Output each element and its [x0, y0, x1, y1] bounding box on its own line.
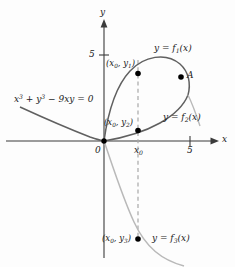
branch-f1-curve — [104, 57, 189, 141]
point-x0-y1-label: (x0, y1) — [106, 59, 135, 69]
branch-f3-curve — [104, 141, 184, 266]
p1-open: (x — [106, 58, 114, 68]
x0-label: x0 — [134, 146, 143, 156]
f2-lhs: y = f — [163, 112, 185, 122]
folium-of-descartes-figure: y x 5 5 0 x0 x3 + y3 − 9xy = 0 y = f1(x)… — [0, 0, 235, 267]
y-axis-label: y — [100, 8, 105, 17]
point-origin — [101, 138, 106, 143]
branch-label-f2: y = f2(x) — [163, 113, 201, 123]
point-A — [178, 74, 184, 80]
x-axis-arrow — [211, 138, 220, 145]
curve-canvas — [0, 0, 235, 267]
f2-rhs: (x) — [189, 112, 201, 122]
point-x0-y1 — [135, 71, 141, 77]
p2-close: ) — [130, 117, 133, 127]
p1-close: ) — [132, 58, 135, 68]
f1-lhs: y = f — [154, 43, 176, 53]
point-x0-y3 — [135, 236, 141, 242]
p1-mid: , y — [118, 58, 128, 68]
y-axis-arrow — [101, 19, 108, 28]
y-tick-label-5: 5 — [89, 50, 95, 59]
f3-rhs: (x) — [178, 233, 190, 243]
branch-left-arm-curve — [20, 107, 104, 141]
equation-rest: − 9xy = 0 — [45, 94, 93, 104]
equation-label: x3 + y3 − 9xy = 0 — [14, 94, 93, 104]
p3-open: (x — [102, 233, 110, 243]
f1-rhs: (x) — [180, 43, 192, 53]
p3-close: ) — [128, 233, 131, 243]
x0-sub: 0 — [139, 149, 143, 156]
f3-lhs: y = f — [152, 233, 174, 243]
origin-label: 0 — [95, 146, 101, 155]
branch-label-f3: y = f3(x) — [152, 234, 190, 244]
p2-open: (x — [104, 117, 112, 127]
point-x0-y2 — [135, 128, 141, 134]
equation-plus: + — [23, 94, 36, 104]
branch-label-f1: y = f1(x) — [154, 44, 192, 54]
x-tick-label-5: 5 — [187, 146, 193, 155]
point-A-label: A — [187, 71, 194, 80]
point-x0-y3-label: (x0, y3) — [102, 234, 131, 244]
p2-mid: , y — [116, 117, 126, 127]
p3-mid: , y — [114, 233, 124, 243]
point-x0-y2-label: (x0, y2) — [104, 118, 133, 128]
x-axis-label: x — [222, 135, 227, 144]
